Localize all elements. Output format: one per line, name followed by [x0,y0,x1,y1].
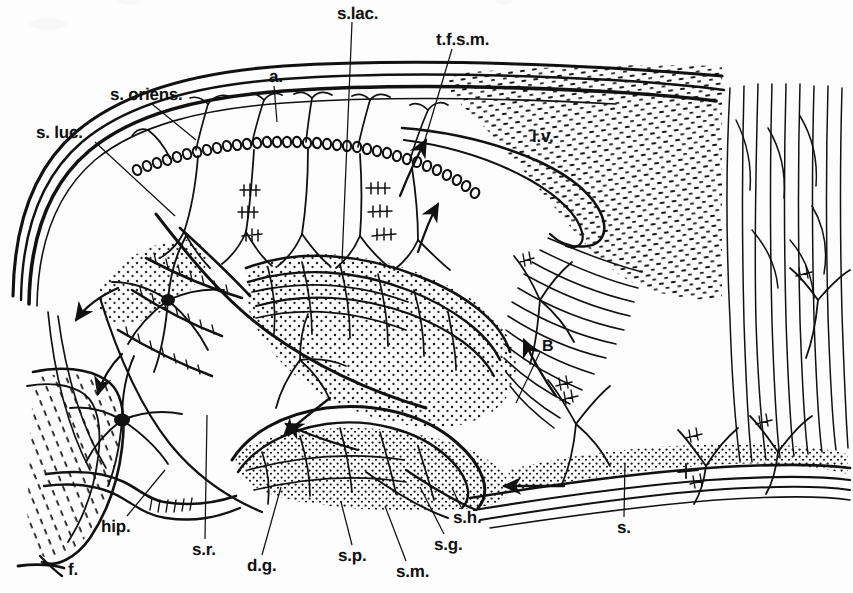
hippocampus-figure: s.lac.t.f.s.m.s. oriens.a.s. luc.l.v.Bhi… [0,0,853,593]
tfsm-band [448,65,722,300]
dendritic-spine-tufts [238,182,396,241]
subiculum-edge [490,497,850,528]
label-hip: hip. [101,518,130,535]
label-s-oriens: s. oriens. [110,86,183,103]
label-s-g: s.g. [434,536,463,553]
cortical-fiber-columns [727,84,848,462]
radiatum-soma [114,414,130,427]
label-s-m: s.m. [396,563,429,580]
label-B: B [542,339,553,355]
label-s-luc: s. luc. [36,124,83,141]
label-s: s. [617,519,631,536]
label-d-g: d.g. [247,557,276,574]
label-lv: l.v. [532,128,554,145]
subiculum-lower [480,487,850,520]
label-f: f. [68,561,78,578]
label-tfsm: t.f.s.m. [436,31,489,48]
label-s-r: s.r. [192,541,216,558]
ca1-descending-border [100,298,262,512]
oriens-soma [161,294,175,306]
f-tail [18,565,64,568]
label-s-h: s.h. [453,509,482,526]
label-s-p: s.p. [338,547,367,564]
label-a: a. [269,68,283,85]
arrow-ca1-up [418,204,438,252]
label-s-lac: s.lac. [337,5,378,22]
